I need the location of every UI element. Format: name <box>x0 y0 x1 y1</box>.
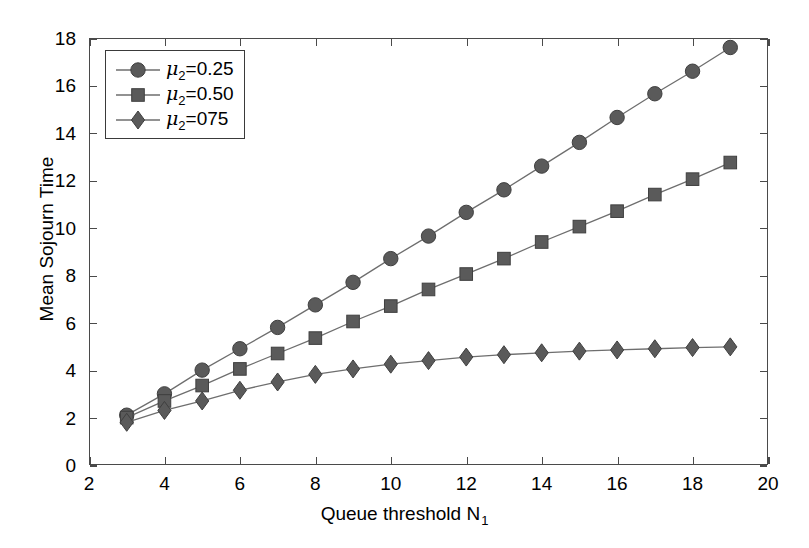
data-point-square <box>309 332 322 345</box>
y-axis-tick <box>760 465 767 466</box>
data-point-circle <box>459 205 473 219</box>
data-point-square <box>196 379 209 392</box>
data-point-circle <box>572 135 586 149</box>
data-point-diamond <box>460 348 473 366</box>
legend-mu-symbol: μ <box>166 82 178 104</box>
legend-label-0: μ2=0.25 <box>162 57 234 83</box>
data-point-diamond <box>611 341 624 359</box>
legend-item-0[interactable]: μ2=0.25 <box>114 57 234 82</box>
series-1 <box>120 156 736 424</box>
x-axis-tick-label: 20 <box>757 474 778 493</box>
data-point-circle <box>195 363 209 377</box>
data-point-square <box>422 283 435 296</box>
y-axis-tick-label: 16 <box>42 76 76 95</box>
y-axis-title: Mean Sojourn Time <box>36 109 58 369</box>
x-axis-tick-label: 6 <box>235 474 246 493</box>
x-axis-tick-label: 14 <box>531 474 552 493</box>
data-point-circle <box>534 159 548 173</box>
data-point-circle <box>648 87 662 101</box>
legend-mu-subscript: 2 <box>178 92 185 107</box>
data-point-square <box>384 300 397 313</box>
data-point-circle <box>384 251 398 265</box>
data-point-diamond <box>724 338 737 356</box>
data-point-square <box>649 188 662 201</box>
x-axis-tick-label: 4 <box>159 474 170 493</box>
data-point-diamond <box>384 355 397 373</box>
y-axis-tick-label: 0 <box>42 456 76 475</box>
legend-mu-symbol: μ <box>166 57 178 79</box>
x-axis-title: Queue threshold N1 <box>0 503 809 528</box>
data-point-square <box>611 205 624 218</box>
data-point-square <box>132 88 145 101</box>
data-point-diamond <box>497 346 510 364</box>
x-axis-title-subscript: 1 <box>480 513 488 528</box>
x-axis-tick-label: 10 <box>380 474 401 493</box>
x-axis-title-text: Queue threshold N <box>321 503 481 524</box>
legend-sample-circle <box>114 59 162 81</box>
data-point-circle <box>685 64 699 78</box>
x-axis-tick-label: 12 <box>456 474 477 493</box>
data-point-diamond <box>346 360 359 378</box>
data-point-circle <box>270 320 284 334</box>
legend-item-1[interactable]: μ2=0.50 <box>114 82 234 107</box>
data-point-diamond <box>271 373 284 391</box>
data-point-circle <box>497 183 511 197</box>
x-axis-tick-label: 18 <box>682 474 703 493</box>
data-point-square <box>686 173 699 186</box>
series-2 <box>120 338 737 431</box>
data-point-square <box>271 347 284 360</box>
data-point-diamond <box>422 352 435 370</box>
data-point-square <box>498 252 511 265</box>
legend-value: =0.50 <box>186 83 234 104</box>
y-axis-tick <box>90 465 97 466</box>
chart-figure: 024681012141618 2468101214161820 Queue t… <box>0 0 809 548</box>
data-point-diamond <box>686 339 699 357</box>
data-point-circle <box>723 40 737 54</box>
data-point-diamond <box>131 111 144 129</box>
data-point-circle <box>131 62 145 76</box>
legend-sample-diamond <box>114 109 162 131</box>
data-point-square <box>535 236 548 249</box>
data-point-diamond <box>535 344 548 362</box>
legend: μ2=0.25μ2=0.50μ2=075 <box>105 50 245 139</box>
data-point-diamond <box>233 381 246 399</box>
data-point-circle <box>610 110 624 124</box>
data-point-diamond <box>309 365 322 383</box>
y-axis-tick-label: 2 <box>42 408 76 427</box>
x-axis-tick <box>768 457 769 464</box>
legend-mu-subscript: 2 <box>178 117 185 132</box>
data-point-square <box>573 220 586 233</box>
legend-mu-symbol: μ <box>166 107 178 129</box>
data-point-circle <box>308 298 322 312</box>
legend-label-2: μ2=075 <box>162 107 228 133</box>
data-point-square <box>234 363 247 376</box>
data-point-circle <box>346 275 360 289</box>
legend-item-2[interactable]: μ2=075 <box>114 107 234 132</box>
x-axis-tick-label: 16 <box>607 474 628 493</box>
legend-sample-square <box>114 84 162 106</box>
x-axis-tick-label: 2 <box>84 474 95 493</box>
legend-label-1: μ2=0.50 <box>162 82 234 108</box>
legend-value: =075 <box>186 108 229 129</box>
data-point-square <box>724 156 737 169</box>
data-point-circle <box>421 229 435 243</box>
data-point-square <box>347 315 360 328</box>
x-axis-tick-label: 8 <box>310 474 321 493</box>
legend-value: =0.25 <box>186 58 234 79</box>
x-axis-tick <box>768 39 769 46</box>
data-point-diamond <box>573 342 586 360</box>
data-point-diamond <box>196 392 209 410</box>
legend-mu-subscript: 2 <box>178 67 185 82</box>
data-point-diamond <box>648 340 661 358</box>
data-point-square <box>460 268 473 281</box>
data-point-circle <box>233 342 247 356</box>
y-axis-tick-label: 18 <box>42 29 76 48</box>
